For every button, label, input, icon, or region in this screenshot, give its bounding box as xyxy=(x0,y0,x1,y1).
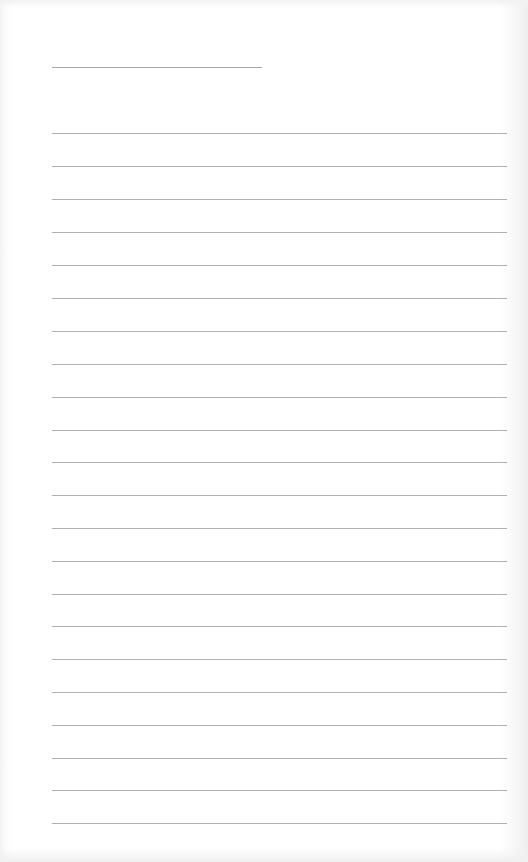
ruled-line xyxy=(52,758,507,759)
ruled-line xyxy=(52,659,507,660)
ruled-line xyxy=(52,790,507,791)
ruled-line xyxy=(52,594,507,595)
ruled-line xyxy=(52,331,507,332)
ruled-line xyxy=(52,298,507,299)
ruled-line xyxy=(52,232,507,233)
ruled-line xyxy=(52,495,507,496)
ruled-line xyxy=(52,626,507,627)
ruled-line xyxy=(52,692,507,693)
ruled-line xyxy=(52,199,507,200)
ruled-line xyxy=(52,133,507,134)
ruled-line xyxy=(52,528,507,529)
ruled-line xyxy=(52,430,507,431)
scan-edge-bottom xyxy=(0,848,528,862)
ruled-line xyxy=(52,561,507,562)
ruled-line xyxy=(52,397,507,398)
ruled-line xyxy=(52,265,507,266)
ruled-line xyxy=(52,725,507,726)
ruled-line xyxy=(52,462,507,463)
ruled-line xyxy=(52,823,507,824)
lined-page xyxy=(0,0,528,862)
ruled-lines-container xyxy=(0,0,528,862)
ruled-line xyxy=(52,364,507,365)
ruled-line xyxy=(52,166,507,167)
